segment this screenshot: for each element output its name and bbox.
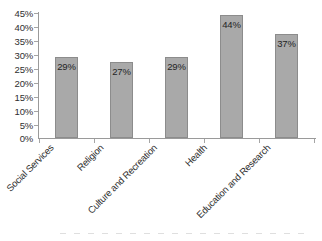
- bar-slot: 27%: [94, 12, 149, 138]
- x-axis-labels: Social Services Religion Culture and Rec…: [0, 138, 322, 241]
- plot-area: 29% 27% 29% 44% 37%: [39, 12, 316, 138]
- x-cat-label-health: Health: [183, 142, 209, 168]
- y-tick-label: 45%: [0, 9, 33, 19]
- bar-health[interactable]: 44%: [220, 15, 243, 138]
- bar-social-services[interactable]: 29%: [55, 57, 78, 138]
- x-cat-label-social-services: Social Services: [4, 142, 56, 194]
- y-tick-label: 35%: [0, 37, 33, 47]
- bar-slot: 29%: [149, 12, 204, 138]
- y-tick-label: 10%: [0, 107, 33, 117]
- bar-slot: 37%: [259, 12, 314, 138]
- bar-culture-and-recreation[interactable]: 29%: [165, 57, 188, 138]
- bar-value-label: 29%: [166, 62, 187, 72]
- y-tick-label: 5%: [0, 121, 33, 131]
- bar-chart: 45% 40% 35% 30% 25% 20% 15% 10% 5% 0% 29…: [0, 0, 322, 241]
- bar-value-label: 27%: [111, 67, 132, 77]
- bar-value-label: 29%: [56, 62, 77, 72]
- y-axis-labels: 45% 40% 35% 30% 25% 20% 15% 10% 5% 0%: [0, 0, 36, 145]
- bar-slot: 44%: [204, 12, 259, 138]
- x-cat-label-religion: Religion: [75, 142, 106, 173]
- y-tick-label: 15%: [0, 93, 33, 103]
- bar-religion[interactable]: 27%: [110, 62, 133, 138]
- y-tick-label: 40%: [0, 23, 33, 33]
- y-tick-label: 20%: [0, 79, 33, 89]
- scan-artifact: [60, 233, 310, 234]
- y-tick-label: 25%: [0, 65, 33, 75]
- x-cat-label-education-and-research: Education and Research: [194, 142, 272, 220]
- bar-value-label: 37%: [276, 39, 297, 49]
- y-tick-label: 30%: [0, 51, 33, 61]
- bar-slot: 29%: [39, 12, 94, 138]
- bar-education-and-research[interactable]: 37%: [275, 34, 298, 138]
- bar-value-label: 44%: [221, 20, 242, 30]
